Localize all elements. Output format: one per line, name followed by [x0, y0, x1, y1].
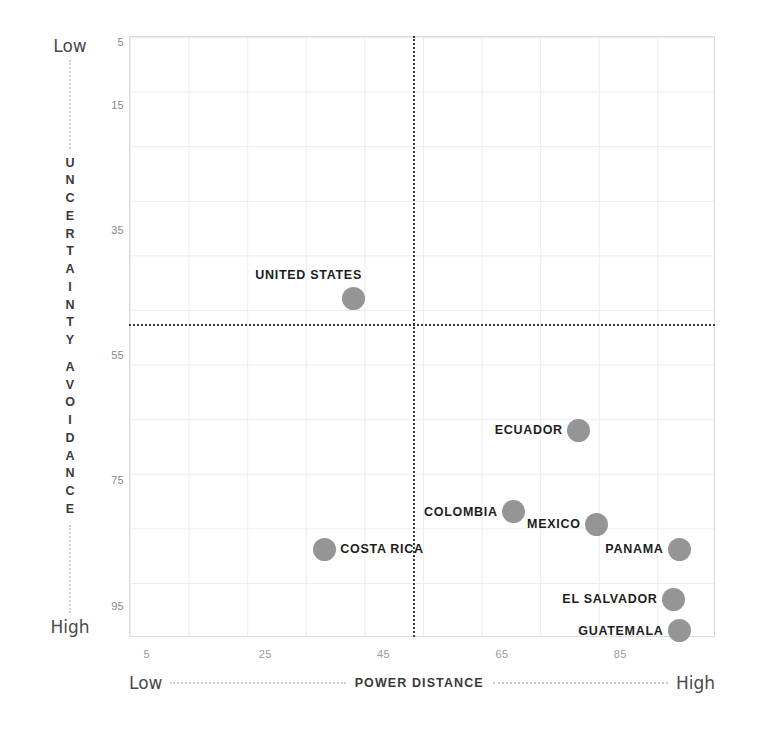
data-point[interactable]	[668, 538, 691, 561]
y-axis-title-group: UNCERTAINTYAVOIDANCE	[50, 56, 90, 617]
x-axis-title: POWER DISTANCE	[346, 676, 493, 690]
y-axis-title-char: R	[65, 226, 74, 244]
y-axis-title-char: I	[68, 412, 71, 430]
y-tick-label: 15	[96, 99, 124, 111]
x-tick-label: 45	[377, 648, 390, 660]
dotted-rule-bottom	[69, 525, 71, 614]
y-axis-title-char: A	[65, 448, 74, 466]
y-axis-high-label: High	[50, 617, 89, 637]
y-axis-title-char: N	[65, 465, 74, 483]
data-point-label: MEXICO	[527, 517, 581, 531]
quadrant-divider-horizontal	[129, 324, 715, 326]
y-tick-label: 55	[96, 349, 124, 361]
x-axis-title-group: POWER DISTANCE	[170, 676, 667, 690]
y-axis-title-char: U	[65, 155, 74, 173]
y-tick-label: 35	[96, 224, 124, 236]
data-point-label: EL SALVADOR	[562, 592, 657, 606]
y-axis-title-char: C	[65, 190, 74, 208]
y-axis-title-char: N	[65, 172, 74, 190]
y-axis-title-column: Low UNCERTAINTYAVOIDANCE High	[50, 36, 90, 637]
y-axis-tick-labels: 51535557595	[90, 0, 124, 729]
x-tick-label: 25	[259, 648, 272, 660]
x-tick-label: 5	[144, 648, 150, 660]
data-point[interactable]	[662, 588, 685, 611]
scatter-chart: UNITED STATESECUADORCOLOMBIAMEXICOCOSTA …	[0, 0, 757, 729]
data-point-label: ECUADOR	[495, 423, 563, 437]
y-tick-label: 75	[96, 474, 124, 486]
y-axis-title-char: I	[68, 279, 71, 297]
y-axis-title-char: O	[65, 394, 75, 412]
y-axis-title-char: Y	[66, 332, 74, 350]
data-point[interactable]	[313, 538, 336, 561]
dotted-rule-left	[170, 682, 345, 684]
y-axis-title-char: N	[65, 297, 74, 315]
dotted-rule-top	[69, 60, 71, 149]
data-point-label: COSTA RICA	[340, 542, 423, 556]
y-axis-title-char: T	[66, 314, 74, 332]
y-axis-title-char: E	[66, 208, 74, 226]
data-point-label: COLOMBIA	[424, 505, 498, 519]
y-axis-title-char: A	[65, 359, 74, 377]
data-point-label: PANAMA	[605, 542, 663, 556]
data-point-label: GUATEMALA	[578, 624, 663, 638]
y-axis-title-char: C	[65, 483, 74, 501]
data-point[interactable]	[585, 513, 608, 536]
data-point-label: UNITED STATES	[255, 268, 362, 282]
x-axis-high-label: High	[676, 673, 715, 693]
y-axis-title-char: D	[65, 430, 74, 448]
data-point[interactable]	[668, 619, 691, 642]
y-axis-title-char: A	[65, 261, 74, 279]
x-axis-low-label: Low	[129, 673, 162, 693]
x-axis-title-row: Low POWER DISTANCE High	[129, 672, 715, 694]
y-tick-label: 5	[96, 36, 124, 48]
y-axis-title-char: V	[66, 377, 74, 395]
y-axis-title: UNCERTAINTYAVOIDANCE	[65, 149, 75, 525]
y-axis-title-char: T	[66, 243, 74, 261]
dotted-rule-right	[493, 682, 668, 684]
x-tick-label: 85	[614, 648, 627, 660]
y-axis-title-char: E	[66, 501, 74, 519]
y-tick-label: 95	[96, 600, 124, 612]
x-tick-label: 65	[495, 648, 508, 660]
y-axis-low-label: Low	[53, 36, 86, 56]
